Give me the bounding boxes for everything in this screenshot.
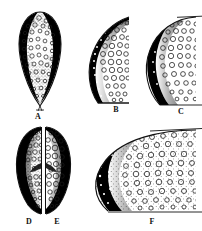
panel-label-f: F	[150, 217, 155, 226]
panel-label-a: A	[35, 112, 41, 121]
panel-label-e: E	[54, 217, 59, 226]
panel-label-d: D	[26, 217, 32, 226]
figure-root: A	[0, 0, 202, 231]
figure-illustration: A	[0, 0, 202, 231]
panel-label-b: B	[113, 105, 119, 114]
panel-label-c: C	[178, 107, 184, 116]
